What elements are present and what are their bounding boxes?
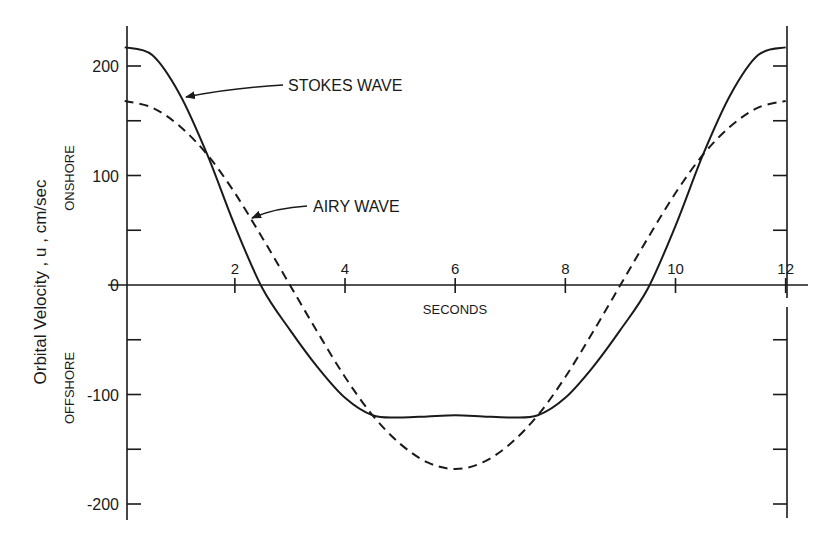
x-tick-label: 8 — [561, 260, 569, 277]
airy-annotation: AIRY WAVE — [252, 198, 400, 218]
y-axis-onshore-label: ONSHORE — [62, 145, 77, 211]
airy-arrow — [252, 206, 307, 218]
x-tick-label: 10 — [667, 260, 684, 277]
y-tick-label: 100 — [92, 168, 119, 185]
stokes-wave-line — [125, 47, 786, 417]
y-tick-label: -100 — [87, 387, 119, 404]
y-tick-label: 0 — [110, 277, 119, 294]
y-axis-title: Orbital Velocity , u , cm/sec — [31, 179, 50, 385]
x-axis-title: SECONDS — [423, 302, 488, 317]
series-layer — [125, 47, 786, 469]
x-tick-label: 12 — [777, 260, 794, 277]
y-tick-label: 200 — [92, 58, 119, 75]
stokes-arrow — [186, 85, 283, 97]
stokes-annotation: STOKES WAVE — [186, 77, 402, 97]
stokes-label: STOKES WAVE — [288, 77, 402, 94]
x-tick-label: 4 — [341, 260, 349, 277]
y-tick-label: -200 — [87, 496, 119, 513]
orbital-velocity-chart: Orbital Velocity , u , cm/sec ONSHORE OF… — [0, 0, 827, 538]
airy-label: AIRY WAVE — [313, 198, 400, 215]
x-tick-label: 2 — [231, 260, 239, 277]
y-axis-offshore-label: OFFSHORE — [62, 352, 77, 425]
x-tick-label: 6 — [451, 260, 459, 277]
